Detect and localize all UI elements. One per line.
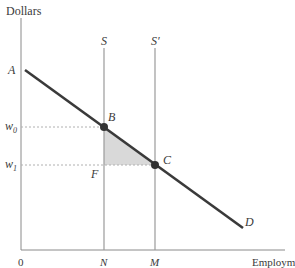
tick-label-w1: w1 (5, 157, 17, 173)
x-axis-label: Employment (252, 256, 295, 268)
label-a: A (7, 63, 16, 77)
origin-label: 0 (18, 256, 24, 268)
label-b: B (108, 110, 116, 124)
label-s: S (101, 34, 107, 48)
tick-label-n: N (99, 256, 108, 268)
tick-label-w0: w0 (5, 119, 17, 135)
y-axis-label: Dollars (6, 4, 42, 18)
labor-market-diagram: Dollars Employment 0 A B C D F S S′ w0 w… (0, 0, 295, 268)
label-s-prime: S′ (151, 34, 160, 48)
label-d: D (244, 215, 254, 229)
point-c (151, 161, 159, 169)
point-b (100, 123, 108, 131)
tick-label-m: M (149, 256, 160, 268)
label-f: F (90, 167, 99, 181)
label-c: C (163, 153, 172, 167)
demand-line (25, 70, 243, 228)
